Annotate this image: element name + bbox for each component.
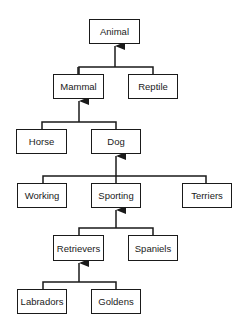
- node-label: Terriers: [191, 190, 223, 201]
- node-label: Animal: [100, 26, 129, 37]
- connector-lines: [0, 0, 244, 330]
- branch-line-dog: [43, 176, 206, 183]
- node-animal: Animal: [89, 19, 140, 44]
- node-label: Sporting: [98, 190, 133, 201]
- node-label: Working: [25, 190, 60, 201]
- node-label: Mammal: [60, 81, 96, 92]
- node-label: Spaniels: [135, 243, 171, 254]
- node-labradors: Labradors: [17, 289, 67, 314]
- node-working: Working: [17, 183, 67, 208]
- branch-line-sporting: [79, 228, 153, 235]
- node-spaniels: Spaniels: [128, 235, 178, 261]
- node-horse: Horse: [16, 129, 67, 154]
- branch-line-mammal: [42, 122, 116, 129]
- branch-line-animal: [79, 67, 153, 74]
- node-mammal: Mammal: [53, 74, 104, 99]
- node-goldens: Goldens: [91, 289, 141, 314]
- node-label: Goldens: [98, 296, 133, 307]
- node-dog: Dog: [91, 129, 141, 154]
- node-retrievers: Retrievers: [53, 235, 104, 261]
- branch-line-retrievers: [43, 282, 116, 289]
- node-reptile: Reptile: [128, 74, 178, 99]
- node-label: Retrievers: [57, 243, 100, 254]
- node-sporting: Sporting: [91, 183, 141, 208]
- node-label: Dog: [107, 136, 124, 147]
- node-label: Labradors: [21, 296, 64, 307]
- node-terriers: Terriers: [182, 183, 232, 208]
- node-label: Horse: [29, 136, 54, 147]
- node-label: Reptile: [138, 81, 168, 92]
